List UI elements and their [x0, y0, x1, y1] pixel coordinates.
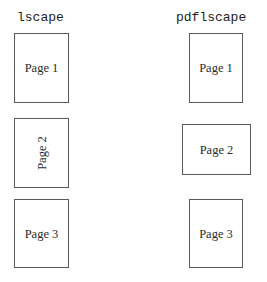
- pdflscape-page-3-label: Page 3: [199, 227, 233, 240]
- pdflscape-page-1-label: Page 1: [199, 62, 233, 75]
- lscape-vs-pdflscape-figure: lscape pdflscape Page 1 Page 2 Page 3 Pa…: [0, 0, 267, 282]
- column-title-lscape: lscape: [17, 11, 64, 24]
- column-title-pdflscape: pdflscape: [176, 11, 246, 24]
- lscape-page-2-label: Page 2: [35, 136, 48, 170]
- lscape-page-1-box: Page 1: [14, 33, 69, 103]
- pdflscape-page-1-box: Page 1: [189, 33, 243, 103]
- pdflscape-page-2-label: Page 2: [200, 143, 234, 156]
- lscape-page-2-box: Page 2: [14, 118, 69, 188]
- lscape-page-1-label: Page 1: [25, 62, 59, 75]
- lscape-page-3-box: Page 3: [14, 199, 69, 268]
- pdflscape-page-2-box: Page 2: [182, 124, 251, 175]
- pdflscape-page-3-box: Page 3: [189, 199, 243, 268]
- lscape-page-3-label: Page 3: [25, 227, 59, 240]
